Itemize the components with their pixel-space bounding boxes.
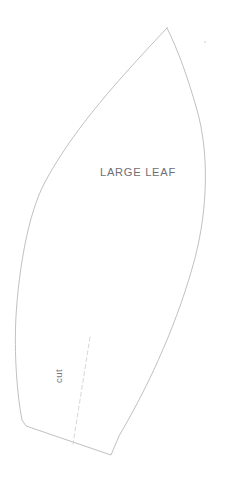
pattern-sheet: LARGE LEAF cut: [0, 0, 230, 483]
scan-speck-icon: [204, 41, 206, 43]
piece-label: LARGE LEAF: [100, 166, 176, 178]
cut-label: cut: [53, 369, 64, 383]
large-leaf-outline: [15, 28, 205, 455]
pattern-drawing-canvas: LARGE LEAF cut: [0, 0, 230, 483]
